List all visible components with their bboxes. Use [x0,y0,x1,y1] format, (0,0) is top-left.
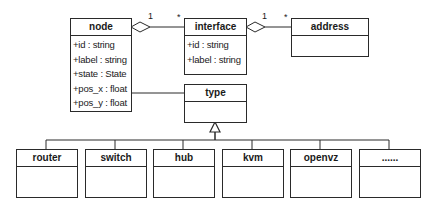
attribute: +state : State [73,67,131,82]
attribute-list: +id : string +label : string +state : St… [71,36,131,111]
multiplicity-label: 1 [148,11,153,21]
attribute: +id : string [73,38,131,53]
aggregation-diamond-icon [246,22,265,32]
class-name: hub [154,150,214,167]
class-name: interface [185,19,246,36]
multiplicity-label: 1 [262,11,267,21]
class-switch: switch [85,149,147,198]
class-kvm: kvm [222,149,284,198]
class-name: node [71,19,131,36]
generalization-arrow-icon [210,122,220,132]
class-name: type [185,85,246,102]
attribute: +pos_y : float [73,96,131,111]
attribute: +label : string [73,53,131,68]
class-node: node +id : string +label : string +state… [70,18,132,112]
class-more: ...... [359,149,421,198]
attribute-list: +id : string +label : string [185,36,246,67]
class-name: kvm [223,150,283,167]
class-hub: hub [153,149,215,198]
class-type: type [184,84,247,123]
class-name: switch [86,150,146,167]
class-address: address [291,18,369,57]
aggregation-diamond-icon [131,22,150,32]
class-interface: interface +id : string +label : string [184,18,247,75]
class-openvz: openvz [290,149,352,198]
multiplicity-label: * [284,12,288,22]
attribute: +id : string [187,38,246,53]
class-router: router [16,149,78,198]
attribute: +pos_x : float [73,82,131,97]
attribute: +label : string [187,53,246,68]
multiplicity-label: * [177,12,181,22]
class-name: address [292,19,368,36]
class-name: ...... [360,150,420,167]
class-name: openvz [291,150,351,167]
class-name: router [17,150,77,167]
